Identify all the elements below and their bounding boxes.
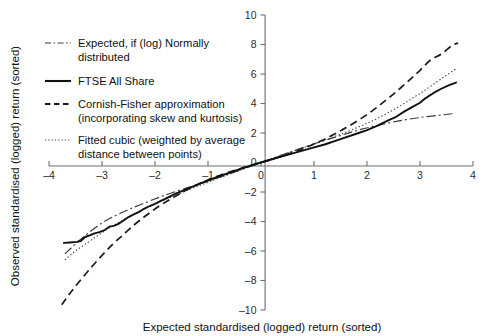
qq-plot-figure: Observed standardised (logged) return (s… (0, 0, 500, 336)
y-tick-label: 6 (251, 68, 257, 80)
x-tick-label: 1 (311, 169, 317, 181)
y-tick-label: 2 (251, 127, 257, 139)
chart-canvas: Observed standardised (logged) return (s… (0, 0, 500, 336)
x-tick-label: –4 (43, 169, 55, 181)
legend-label-line2: distance between points) (78, 148, 202, 160)
y-tick-label: –2 (245, 186, 257, 198)
chart-legend: Expected, if (log) NormallydistributedFT… (45, 37, 245, 160)
legend-item[interactable]: Expected, if (log) Normallydistributed (45, 37, 210, 63)
x-tick-label: 4 (470, 169, 476, 181)
y-tick-label: 8 (251, 38, 257, 50)
legend-label-line1: Expected, if (log) Normally (78, 37, 210, 49)
y-tick-label: –10 (239, 304, 257, 316)
x-tick-label: 0 (258, 169, 264, 181)
y-tick-label: –4 (245, 215, 257, 227)
legend-label-line2: distributed (78, 51, 130, 63)
x-tick-label: 3 (417, 169, 423, 181)
y-tick-label: –6 (245, 245, 257, 257)
x-axis-title: Expected standardised (logged) return (s… (143, 321, 382, 333)
y-tick-label: 4 (251, 97, 257, 109)
x-tick-label: –2 (149, 169, 161, 181)
legend-label-line1: FTSE All Share (78, 75, 154, 87)
legend-item[interactable]: Fitted cubic (weighted by averagedistanc… (45, 134, 245, 160)
legend-label-line1: Fitted cubic (weighted by average (78, 134, 245, 146)
x-tick-label: –3 (96, 169, 108, 181)
legend-item[interactable]: FTSE All Share (45, 75, 154, 87)
y-tick-label: 10 (245, 9, 257, 21)
x-axis-ticks: –4–3–2–101234 (43, 161, 476, 181)
y-tick-label: –8 (245, 274, 257, 286)
y-axis-title: Observed standardised (logged) return (s… (9, 46, 21, 287)
legend-label-line1: Cornish-Fisher approximation (78, 98, 225, 110)
legend-item[interactable]: Cornish-Fisher approximation(incorporati… (45, 98, 242, 124)
legend-label-line2: (incorporating skew and kurtosis) (78, 112, 242, 124)
x-tick-label: 2 (364, 169, 370, 181)
